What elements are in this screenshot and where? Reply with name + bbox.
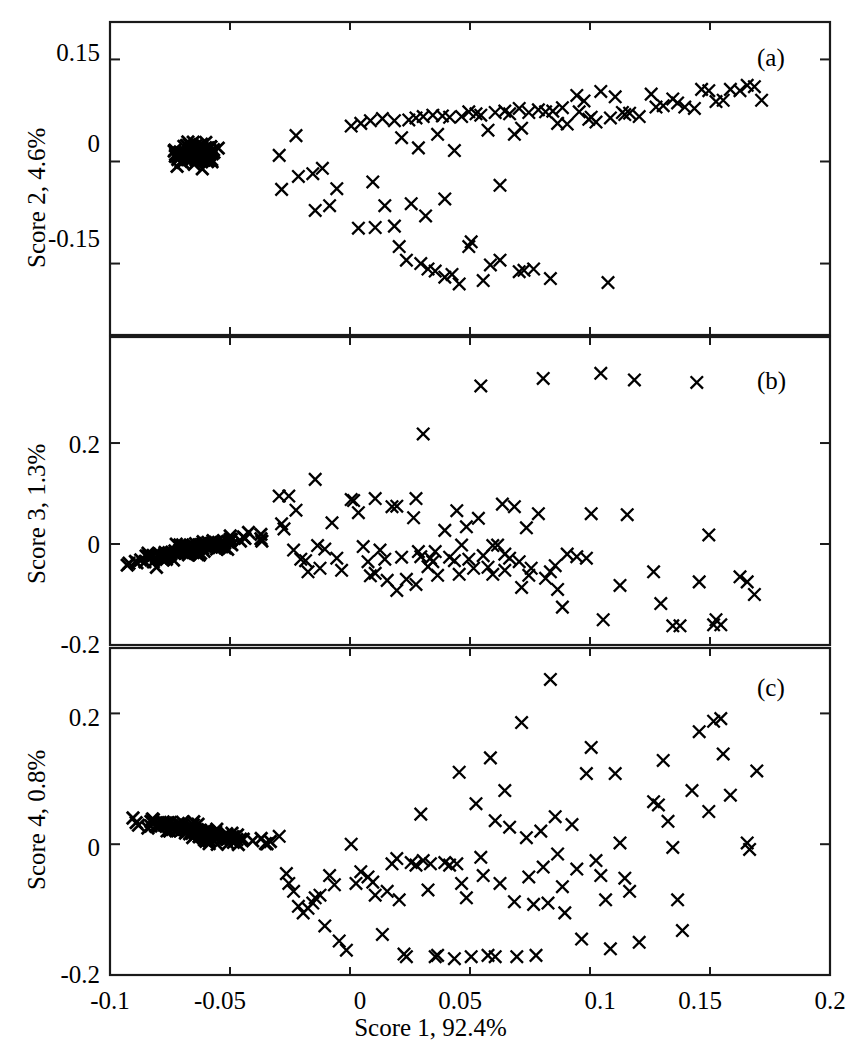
data-point-marker: [628, 374, 640, 386]
data-point-marker: [549, 560, 561, 572]
data-point-marker: [369, 567, 381, 579]
data-point-marker: [407, 512, 419, 524]
data-point-marker: [520, 522, 532, 534]
data-point-marker: [633, 936, 645, 948]
data-point-marker: [590, 854, 602, 866]
data-point-marker: [503, 821, 515, 833]
panel-a-ytick-0: 0.15: [24, 40, 100, 65]
data-point-marker: [561, 118, 573, 130]
data-point-marker: [287, 544, 299, 556]
data-point-marker: [515, 716, 527, 728]
data-point-marker: [508, 896, 520, 908]
data-point-marker: [419, 210, 431, 222]
data-point-marker: [319, 920, 331, 932]
data-point-marker: [470, 797, 482, 809]
data-point-marker: [431, 569, 443, 581]
x-axis-label: Score 1, 92.4%: [0, 1015, 861, 1040]
data-point-marker: [405, 197, 417, 209]
data-point-marker: [595, 85, 607, 97]
data-point-marker: [345, 838, 357, 850]
data-point-marker: [431, 128, 443, 140]
data-point-marker: [535, 825, 547, 837]
xtick-label-2: 0: [330, 988, 390, 1013]
data-point-marker: [513, 555, 525, 567]
data-point-marker: [453, 766, 465, 778]
data-point-marker: [645, 88, 657, 100]
data-point-marker: [340, 944, 352, 956]
data-point-marker: [547, 105, 559, 117]
data-point-marker: [391, 584, 403, 596]
data-point-marker: [503, 552, 515, 564]
data-point-marker: [741, 576, 753, 588]
data-point-marker: [662, 815, 674, 827]
data-point-marker: [379, 200, 391, 212]
data-point-marker: [667, 841, 679, 853]
data-point-marker: [571, 863, 583, 875]
data-point-marker: [333, 935, 345, 947]
scatter-plot-canvas: [0, 0, 861, 1050]
data-point-marker: [691, 376, 703, 388]
data-point-marker: [415, 808, 427, 820]
data-point-marker: [367, 176, 379, 188]
panel-b-ylabel: Score 3, 1.3%: [24, 444, 49, 584]
data-point-marker: [290, 504, 302, 516]
data-point-marker: [751, 765, 763, 777]
data-point-marker: [460, 521, 472, 533]
data-point-marker: [302, 566, 314, 578]
data-point-marker: [331, 552, 343, 564]
data-point-marker: [453, 568, 465, 580]
xtick-label-4: 0.1: [570, 988, 630, 1013]
data-point-marker: [355, 117, 367, 129]
data-point-marker: [542, 897, 554, 909]
panel-a-ylabel: Score 2, 4.6%: [24, 128, 49, 268]
data-point-marker: [556, 102, 568, 114]
data-point-marker: [455, 877, 467, 889]
data-point-marker: [499, 784, 511, 796]
data-point-marker: [537, 372, 549, 384]
data-point-marker: [350, 877, 362, 889]
data-point-marker: [633, 110, 645, 122]
data-point-marker: [676, 924, 688, 936]
data-point-marker: [657, 754, 669, 766]
data-point-marker: [539, 572, 551, 584]
data-point-marker: [422, 884, 434, 896]
data-point-marker: [388, 220, 400, 232]
data-point-marker: [292, 170, 304, 182]
data-point-marker: [556, 881, 568, 893]
data-point-marker: [448, 952, 460, 964]
panel-b: [110, 337, 830, 645]
data-point-marker: [614, 579, 626, 591]
data-point-marker: [309, 473, 321, 485]
data-point-marker: [511, 950, 523, 962]
data-point-marker: [647, 566, 659, 578]
xtick-label-6: 0.2: [800, 988, 860, 1013]
data-point-marker: [376, 112, 388, 124]
data-point-marker: [376, 928, 388, 940]
data-point-marker: [734, 85, 746, 97]
data-point-marker: [604, 112, 616, 124]
data-point-marker: [448, 554, 460, 566]
data-point-marker: [309, 204, 321, 216]
data-point-marker: [395, 131, 407, 143]
panel-c-ylabel: Score 4, 0.8%: [24, 750, 49, 890]
data-point-marker: [352, 222, 364, 234]
data-point-marker: [364, 114, 376, 126]
data-point-marker: [748, 588, 760, 600]
data-point-marker: [556, 601, 568, 613]
data-point-marker: [410, 859, 422, 871]
data-point-marker: [391, 852, 403, 864]
data-point-marker: [688, 102, 700, 114]
xtick-label-3: 0.05: [430, 988, 490, 1013]
data-point-marker: [278, 523, 290, 535]
data-point-marker: [755, 94, 767, 106]
data-point-marker: [314, 562, 326, 574]
data-point-marker: [655, 597, 667, 609]
data-point-marker: [415, 257, 427, 269]
data-point-marker: [609, 767, 621, 779]
data-point-marker: [703, 805, 715, 817]
data-point-marker: [494, 179, 506, 191]
data-point-marker: [693, 726, 705, 738]
data-point-marker: [290, 129, 302, 141]
data-point-marker: [508, 500, 520, 512]
data-point-marker: [448, 144, 460, 156]
